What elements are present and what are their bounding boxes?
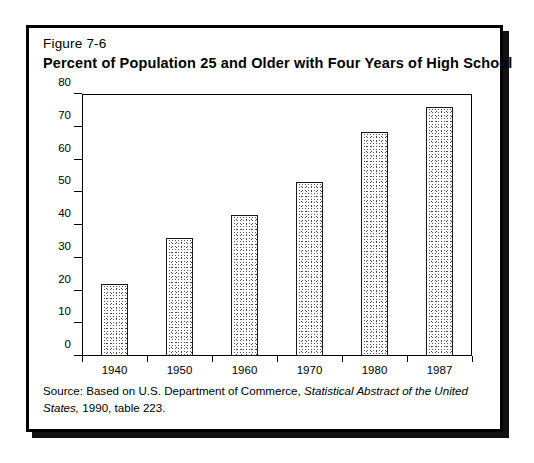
- y-axis-tick-label: 0: [65, 338, 71, 350]
- y-axis-tick-label: 30: [58, 240, 71, 252]
- chart-title: Percent of Population 25 and Older with …: [43, 55, 513, 71]
- y-axis-tick: [74, 224, 82, 225]
- figure-label: Figure 7-6: [43, 36, 107, 51]
- x-axis-label-1970: 1970: [277, 364, 342, 376]
- x-axis-labels: 194019501960197019801987: [82, 364, 472, 376]
- figure-frame: Figure 7-6 Percent of Population 25 and …: [26, 25, 503, 432]
- y-axis-tick: [74, 355, 82, 356]
- y-axis-tick: [74, 93, 82, 94]
- bar-1950: [166, 238, 193, 356]
- bar-1987: [426, 107, 453, 356]
- y-axis-tick-label: 60: [58, 142, 71, 154]
- y-axis-tick: [74, 126, 82, 127]
- x-axis-label-1980: 1980: [342, 364, 407, 376]
- plot-area: 01020304050607080 1940195019601970198019…: [82, 94, 472, 356]
- bar-1970: [296, 182, 323, 356]
- bar-1960: [231, 215, 258, 356]
- y-axis-tick: [74, 191, 82, 192]
- x-axis-label-1950: 1950: [147, 364, 212, 376]
- bar-slot: [147, 94, 212, 356]
- x-axis-tick: [407, 356, 408, 362]
- x-axis-tick: [472, 356, 473, 362]
- x-axis-label-1940: 1940: [82, 364, 147, 376]
- bar-1940: [101, 284, 128, 356]
- source-prefix: Source: Based on U.S. Department of Comm…: [43, 384, 304, 397]
- bar-slot: [407, 94, 472, 356]
- y-axis-tick-label: 20: [58, 273, 71, 285]
- y-axis-tick-label: 50: [58, 174, 71, 186]
- x-axis-tick: [147, 356, 148, 362]
- y-axis-tick: [74, 322, 82, 323]
- y-axis-tick-label: 70: [58, 109, 71, 121]
- bar-series: [82, 94, 472, 356]
- y-axis-tick: [74, 257, 82, 258]
- source-suffix: 1990, table 223.: [79, 401, 165, 414]
- y-axis-tick: [74, 159, 82, 160]
- bar-slot: [82, 94, 147, 356]
- y-axis-tick: [74, 290, 82, 291]
- y-axis-tick-label: 80: [58, 76, 71, 88]
- y-axis-tick-label: 10: [58, 305, 71, 317]
- x-axis-tick: [277, 356, 278, 362]
- x-axis-tick: [212, 356, 213, 362]
- x-axis-label-1987: 1987: [407, 364, 472, 376]
- y-axis-tick-label: 40: [58, 207, 71, 219]
- bar-1980: [361, 132, 388, 356]
- x-axis-tick: [82, 356, 83, 362]
- bar-slot: [212, 94, 277, 356]
- x-axis-label-1960: 1960: [212, 364, 277, 376]
- bar-slot: [342, 94, 407, 356]
- x-axis-tick: [342, 356, 343, 362]
- source-note: Source: Based on U.S. Department of Comm…: [43, 383, 489, 417]
- bar-slot: [277, 94, 342, 356]
